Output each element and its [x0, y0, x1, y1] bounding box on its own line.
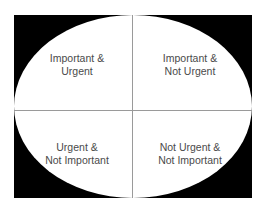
quadrant-label-line1: Urgent & [22, 141, 132, 154]
matrix-frame: Important & Urgent Important & Not Urgen… [14, 15, 252, 198]
quadrant-label-line2: Not Urgent [135, 65, 245, 78]
vertical-divider [132, 15, 133, 198]
quadrant-label-line2: Urgent [22, 65, 132, 78]
horizontal-divider [14, 110, 252, 111]
quadrant-important-urgent: Important & Urgent [22, 52, 132, 78]
quadrant-label-line2: Not Important [22, 154, 132, 167]
quadrant-label-line2: Not Important [135, 154, 245, 167]
quadrant-urgent-not-important: Urgent & Not Important [22, 141, 132, 167]
matrix-ellipse [14, 15, 252, 198]
quadrant-important-not-urgent: Important & Not Urgent [135, 52, 245, 78]
quadrant-not-urgent-not-important: Not Urgent & Not Important [135, 141, 245, 167]
quadrant-label-line1: Important & [135, 52, 245, 65]
quadrant-label-line1: Important & [22, 52, 132, 65]
quadrant-label-line1: Not Urgent & [135, 141, 245, 154]
